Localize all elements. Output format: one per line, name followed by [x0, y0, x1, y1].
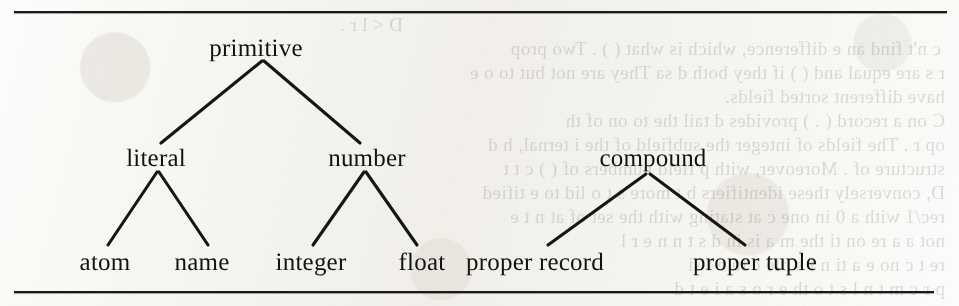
tree-edge-number-to-float [366, 172, 417, 245]
tree-node-primitive: primitive [209, 36, 302, 61]
tree-node-float: float [399, 250, 446, 275]
tree-node-integer: integer [276, 250, 347, 275]
tree-edge-compound-to-proper-tuple [650, 174, 745, 245]
tree-node-proper-tuple: proper tuple [693, 250, 817, 275]
tree-node-atom: atom [80, 250, 131, 275]
tree-node-proper-record: proper record [466, 250, 604, 275]
tree-edge-literal-to-atom [108, 172, 157, 245]
figure-scan-page: D < l r .c n't find an e difference, whi… [0, 0, 959, 306]
tree-edge-primitive-to-literal [161, 61, 262, 143]
tree-edge-number-to-integer [313, 172, 364, 245]
tree-edge-compound-to-proper-record [548, 174, 646, 245]
tree-node-compound: compound [599, 146, 706, 171]
tree-edge-primitive-to-number [264, 61, 360, 143]
tree-node-number: number [328, 146, 406, 171]
tree-node-name: name [175, 250, 230, 275]
tree-edge-literal-to-name [159, 172, 208, 245]
tree-node-literal: literal [126, 146, 186, 171]
